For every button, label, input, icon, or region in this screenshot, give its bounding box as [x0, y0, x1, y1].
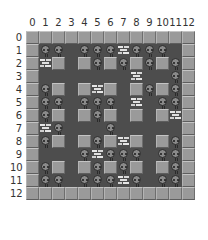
cell-wall[interactable] — [130, 187, 143, 200]
cell-brick[interactable] — [169, 109, 182, 122]
cell-wall[interactable] — [182, 83, 195, 96]
cell-wall[interactable] — [182, 44, 195, 57]
cell-floor[interactable] — [65, 44, 78, 57]
cell-enemy[interactable] — [169, 135, 182, 148]
cell-floor[interactable] — [143, 109, 156, 122]
cell-brick[interactable] — [117, 135, 130, 148]
cell-enemy[interactable] — [143, 44, 156, 57]
cell-wall[interactable] — [26, 83, 39, 96]
cell-enemy[interactable] — [104, 148, 117, 161]
cell-wall[interactable] — [182, 135, 195, 148]
cell-enemy[interactable] — [130, 174, 143, 187]
cell-enemy[interactable] — [156, 174, 169, 187]
cell-brick[interactable] — [39, 122, 52, 135]
cell-floor[interactable] — [65, 174, 78, 187]
cell-wall[interactable] — [143, 31, 156, 44]
cell-wall[interactable] — [182, 70, 195, 83]
cell-floor[interactable] — [117, 83, 130, 96]
cell-enemy[interactable] — [39, 83, 52, 96]
cell-wall[interactable] — [78, 109, 91, 122]
cell-wall[interactable] — [26, 187, 39, 200]
cell-floor[interactable] — [65, 57, 78, 70]
cell-enemy[interactable] — [39, 109, 52, 122]
cell-enemy[interactable] — [39, 161, 52, 174]
cell-enemy[interactable] — [143, 83, 156, 96]
cell-brick[interactable] — [117, 44, 130, 57]
cell-enemy[interactable] — [78, 148, 91, 161]
cell-enemy[interactable] — [91, 96, 104, 109]
cell-wall[interactable] — [26, 174, 39, 187]
cell-enemy[interactable] — [39, 44, 52, 57]
cell-wall[interactable] — [52, 161, 65, 174]
cell-enemy[interactable] — [169, 83, 182, 96]
cell-wall[interactable] — [104, 83, 117, 96]
cell-floor[interactable] — [117, 122, 130, 135]
cell-wall[interactable] — [104, 187, 117, 200]
cell-brick[interactable] — [39, 57, 52, 70]
cell-enemy[interactable] — [91, 44, 104, 57]
cell-wall[interactable] — [91, 31, 104, 44]
cell-wall[interactable] — [26, 57, 39, 70]
cell-floor[interactable] — [91, 122, 104, 135]
cell-wall[interactable] — [156, 161, 169, 174]
cell-enemy[interactable] — [52, 122, 65, 135]
cell-wall[interactable] — [39, 187, 52, 200]
cell-floor[interactable] — [130, 122, 143, 135]
cell-floor[interactable] — [52, 70, 65, 83]
cell-enemy[interactable] — [156, 44, 169, 57]
cell-enemy[interactable] — [39, 96, 52, 109]
cell-enemy[interactable] — [117, 57, 130, 70]
cell-floor[interactable] — [156, 70, 169, 83]
cell-floor[interactable] — [78, 122, 91, 135]
cell-enemy[interactable] — [91, 57, 104, 70]
cell-floor[interactable] — [39, 148, 52, 161]
cell-enemy[interactable] — [52, 174, 65, 187]
cell-wall[interactable] — [182, 31, 195, 44]
cell-wall[interactable] — [182, 148, 195, 161]
cell-brick[interactable] — [117, 174, 130, 187]
cell-floor[interactable] — [65, 70, 78, 83]
cell-wall[interactable] — [52, 109, 65, 122]
cell-enemy[interactable] — [104, 122, 117, 135]
cell-wall[interactable] — [169, 187, 182, 200]
cell-enemy[interactable] — [143, 57, 156, 70]
cell-brick[interactable] — [91, 148, 104, 161]
cell-floor[interactable] — [65, 161, 78, 174]
cell-enemy[interactable] — [39, 174, 52, 187]
cell-wall[interactable] — [130, 83, 143, 96]
cell-wall[interactable] — [26, 109, 39, 122]
cell-wall[interactable] — [169, 31, 182, 44]
cell-wall[interactable] — [130, 31, 143, 44]
cell-wall[interactable] — [52, 31, 65, 44]
cell-wall[interactable] — [156, 135, 169, 148]
cell-floor[interactable] — [143, 148, 156, 161]
cell-wall[interactable] — [156, 109, 169, 122]
cell-enemy[interactable] — [91, 174, 104, 187]
cell-floor[interactable] — [143, 135, 156, 148]
cell-wall[interactable] — [117, 31, 130, 44]
cell-brick[interactable] — [130, 70, 143, 83]
cell-floor[interactable] — [143, 174, 156, 187]
cell-wall[interactable] — [52, 83, 65, 96]
cell-wall[interactable] — [52, 57, 65, 70]
cell-floor[interactable] — [117, 96, 130, 109]
game-board[interactable] — [26, 31, 195, 200]
cell-enemy[interactable] — [39, 135, 52, 148]
cell-wall[interactable] — [117, 187, 130, 200]
cell-wall[interactable] — [182, 174, 195, 187]
cell-wall[interactable] — [156, 83, 169, 96]
cell-enemy[interactable] — [52, 96, 65, 109]
cell-floor[interactable] — [117, 70, 130, 83]
cell-enemy[interactable] — [169, 161, 182, 174]
cell-wall[interactable] — [182, 161, 195, 174]
cell-enemy[interactable] — [104, 96, 117, 109]
cell-wall[interactable] — [104, 109, 117, 122]
cell-floor[interactable] — [78, 70, 91, 83]
cell-floor[interactable] — [104, 70, 117, 83]
cell-wall[interactable] — [104, 135, 117, 148]
cell-floor[interactable] — [65, 122, 78, 135]
cell-wall[interactable] — [130, 161, 143, 174]
cell-enemy[interactable] — [78, 44, 91, 57]
cell-floor[interactable] — [143, 70, 156, 83]
cell-wall[interactable] — [65, 187, 78, 200]
